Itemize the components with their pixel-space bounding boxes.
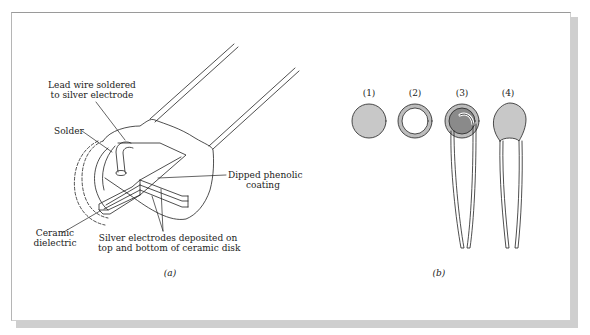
stage-label-3: (3) bbox=[452, 88, 472, 98]
caption-b: (b) bbox=[429, 268, 449, 278]
stage-label-2: (2) bbox=[405, 88, 425, 98]
label-lead-wire-line1: Lead wire soldered bbox=[46, 80, 138, 90]
label-silver-electrodes: Silver electrodes deposited on top and b… bbox=[98, 233, 238, 253]
label-solder: Solder bbox=[54, 126, 84, 136]
stage-label-1: (1) bbox=[359, 88, 379, 98]
label-ceramic-line2: dielectric bbox=[32, 238, 78, 248]
stage-label-4: (4) bbox=[498, 88, 518, 98]
label-dipped-line1: Dipped phenolic bbox=[228, 170, 298, 180]
caption-a: (a) bbox=[160, 268, 180, 278]
stage1-disk bbox=[352, 104, 386, 138]
label-ceramic-dielectric: Ceramic dielectric bbox=[32, 228, 78, 248]
label-dipped-line2: coating bbox=[228, 180, 298, 190]
label-silver-line2: top and bottom of ceramic disk bbox=[98, 243, 238, 253]
stage4-coated-capacitor bbox=[493, 103, 526, 248]
leader-lines bbox=[62, 102, 226, 233]
stage3-disk-with-leads bbox=[445, 104, 479, 248]
stage2-electrode-ring bbox=[398, 104, 432, 138]
capacitor-diagram bbox=[0, 0, 590, 335]
label-lead-wire-line2: to silver electrode bbox=[46, 90, 138, 100]
label-dipped-coating: Dipped phenolic coating bbox=[228, 170, 298, 190]
solder-joint-icon bbox=[116, 142, 133, 176]
label-ceramic-line1: Ceramic bbox=[32, 228, 78, 238]
lead-wires-icon bbox=[150, 44, 299, 149]
label-lead-wire: Lead wire soldered to silver electrode bbox=[46, 80, 138, 100]
label-silver-line1: Silver electrodes deposited on bbox=[98, 233, 238, 243]
